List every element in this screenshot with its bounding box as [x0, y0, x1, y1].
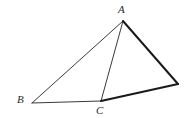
figure-canvas — [0, 0, 193, 118]
edge-AB — [32, 21, 123, 103]
geometry-figure: A B C — [0, 0, 193, 118]
edge-AD — [123, 21, 178, 84]
vertex-label-c: C — [96, 105, 103, 116]
vertex-label-a: A — [118, 4, 125, 15]
vertex-label-b: B — [17, 94, 24, 105]
edge-AC — [101, 21, 123, 101]
edge-CD — [101, 84, 178, 101]
edge-BC — [32, 101, 101, 103]
